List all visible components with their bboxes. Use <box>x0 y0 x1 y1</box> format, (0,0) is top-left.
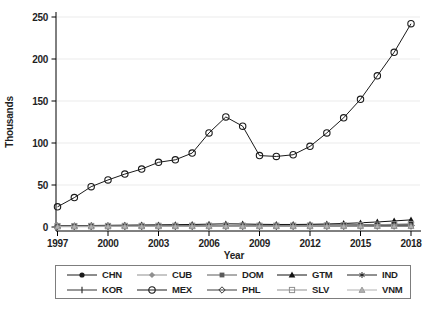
line-chart-figure: 0501001502002501997200020032006200920122… <box>0 0 429 312</box>
legend-item-ind: IND <box>338 269 408 280</box>
legend-label: VNM <box>382 284 403 295</box>
marker-circle_o <box>408 21 414 27</box>
legend-item-mex: MEX <box>128 284 198 295</box>
legend-key-triangle_lf <box>346 285 378 295</box>
legend-item-slv: SLV <box>268 284 338 295</box>
legend-label: DOM <box>242 269 264 280</box>
legend-key-circle_o <box>136 285 168 295</box>
legend-item-dom: DOM <box>198 269 268 280</box>
legend-item-gtm: GTM <box>268 269 338 280</box>
legend-item-kor: KOR <box>58 284 128 295</box>
legend-item-chn: CHN <box>58 269 128 280</box>
legend-item-phl: PHL <box>198 284 268 295</box>
data-series <box>54 21 414 230</box>
legend-item-vnm: VNM <box>338 284 408 295</box>
legend-key-circle_f <box>66 270 98 280</box>
x-tick-label: 2012 <box>299 238 321 249</box>
x-tick-label: 2006 <box>198 238 220 249</box>
series-mex <box>54 21 414 211</box>
x-tick-label: 2003 <box>148 238 170 249</box>
legend-label: KOR <box>102 284 123 295</box>
gridlines <box>56 17 420 185</box>
y-tick-label: 250 <box>32 12 49 23</box>
x-axis-title: Year <box>224 250 245 261</box>
y-axis-title: Thousands <box>4 96 15 148</box>
x-tick-label: 2009 <box>249 238 271 249</box>
marker-diamond_f <box>149 271 155 277</box>
x-tick-label: 2000 <box>97 238 119 249</box>
legend-label: IND <box>382 269 398 280</box>
marker-square_f <box>220 272 225 277</box>
x-tick-label: 1997 <box>47 238 69 249</box>
legend-key-square_o <box>276 285 308 295</box>
legend-key-diamond_o <box>206 285 238 295</box>
legend-key-triangle_f <box>276 270 308 280</box>
y-tick-label: 150 <box>32 96 49 107</box>
x-tick-label: 2018 <box>400 238 422 249</box>
y-tick-label: 0 <box>43 222 49 233</box>
marker-circle_f <box>79 272 84 277</box>
axes: 0501001502002501997200020032006200920122… <box>32 12 422 250</box>
y-tick-label: 50 <box>37 180 48 191</box>
legend-label: PHL <box>242 284 260 295</box>
legend-key-square_f <box>206 270 238 280</box>
legend-key-asterisk <box>346 270 378 280</box>
legend-label: CUB <box>172 269 192 280</box>
legend-label: SLV <box>312 284 329 295</box>
legend-label: MEX <box>172 284 192 295</box>
x-tick-label: 2015 <box>350 238 372 249</box>
y-tick-label: 200 <box>32 54 49 65</box>
series-line <box>58 24 412 207</box>
legend: CHNCUBDOMGTMINDKORMEXPHLSLVVNM <box>55 265 411 299</box>
y-tick-label: 100 <box>32 138 49 149</box>
legend-label: GTM <box>312 269 333 280</box>
legend-item-cub: CUB <box>128 269 198 280</box>
legend-key-diamond_f <box>136 270 168 280</box>
legend-label: CHN <box>102 269 122 280</box>
legend-key-vbar <box>66 285 98 295</box>
